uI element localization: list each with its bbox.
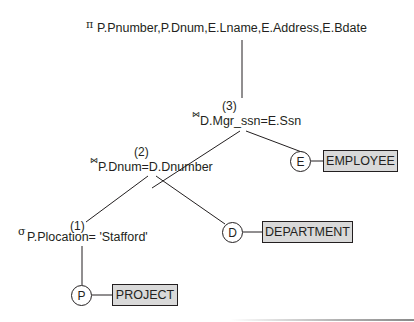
join3-condition: D.Mgr_ssn=E.Ssn [200, 115, 301, 128]
alias-d-label: D [228, 226, 237, 240]
select1-condition: P.Plocation= 'Stafford' [27, 231, 148, 244]
alias-p-label: P [77, 289, 85, 303]
relation-box-department: DEPARTMENT [262, 221, 353, 243]
alias-circle-d: D [222, 222, 243, 243]
relation-employee-label: EMPLOYEE [326, 154, 395, 168]
select1-symbol: σ [18, 226, 26, 237]
bottom-rule [230, 319, 414, 321]
join2-symbol: ⋈ [90, 157, 98, 165]
join3-step-label: (3) [222, 100, 237, 112]
relation-box-employee: EMPLOYEE [323, 150, 398, 172]
alias-circle-e: E [290, 151, 311, 172]
edge-join2-department [156, 176, 225, 224]
join2-step-label: (2) [134, 146, 149, 158]
projection-symbol: π [86, 19, 93, 30]
join2-condition: P.Dnum=D.Dnumber [98, 161, 213, 174]
relation-box-project: PROJECT [112, 284, 178, 306]
alias-circle-p: P [71, 285, 92, 306]
relation-department-label: DEPARTMENT [265, 225, 350, 239]
alias-e-label: E [296, 155, 304, 169]
relation-project-label: PROJECT [116, 288, 174, 302]
join3-symbol: ⋈ [192, 111, 200, 119]
edge-join2-select1 [86, 176, 148, 222]
projection-attributes: P.Pnumber,P.Dnum,E.Lname,E.Address,E.Bda… [97, 22, 367, 35]
